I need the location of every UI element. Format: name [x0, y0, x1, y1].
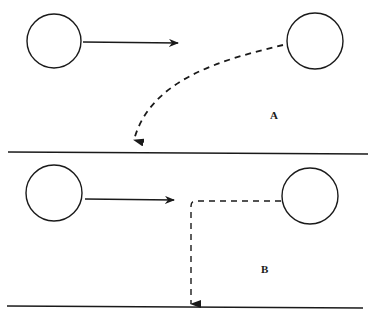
arrow-a-horizontal	[83, 42, 178, 43]
ground-line-a	[8, 152, 368, 154]
label-a: A	[270, 109, 278, 121]
ground-line-b	[7, 306, 363, 308]
circle-b-left	[26, 165, 82, 221]
arrow-b-horizontal	[85, 199, 174, 200]
label-b: B	[261, 263, 269, 275]
panel-b: B	[7, 165, 363, 308]
dashed-curve-a	[134, 45, 283, 140]
circle-b-right	[282, 168, 338, 224]
circle-a-left	[27, 14, 81, 68]
circle-a-right	[287, 13, 343, 69]
panel-a: A	[8, 13, 368, 154]
diagram-canvas: A B	[0, 0, 375, 323]
dashed-right-angle-b	[191, 201, 281, 304]
